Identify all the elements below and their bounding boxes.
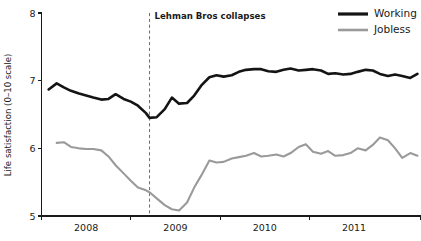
- x-axis-tick-label: 2008: [74, 222, 98, 233]
- x-axis-tick-label: 2010: [253, 222, 277, 233]
- y-axis-title-label: Life satisfaction (0–10 scale): [3, 54, 13, 177]
- chart-figure: Life satisfaction (0–10 scale) 5678 2008…: [0, 0, 421, 241]
- y-axis-title: Life satisfaction (0–10 scale): [3, 54, 13, 177]
- legend-label-jobless: Jobless: [373, 23, 411, 35]
- y-axis-tick-label: 6: [29, 143, 35, 154]
- series-line-jobless: [57, 138, 418, 211]
- x-axis: 2008200920102011: [42, 216, 421, 233]
- y-axis-tick-label: 5: [29, 211, 35, 222]
- lehman-collapse-marker-label: Lehman Bros collapses: [155, 11, 266, 21]
- x-axis-tick-label: 2009: [163, 222, 187, 233]
- x-axis-tick-label: 2011: [342, 222, 366, 233]
- y-axis-tick-label: 7: [29, 75, 35, 86]
- chart-legend: WorkingJobless: [338, 7, 417, 35]
- legend-label-working: Working: [374, 7, 417, 19]
- chart-annotations: Lehman Bros collapses: [150, 11, 266, 216]
- chart-series: [49, 68, 418, 210]
- series-line-working: [49, 68, 418, 117]
- y-axis: 5678: [29, 8, 41, 222]
- line-chart: Life satisfaction (0–10 scale) 5678 2008…: [0, 0, 421, 241]
- y-axis-tick-label: 8: [29, 8, 35, 19]
